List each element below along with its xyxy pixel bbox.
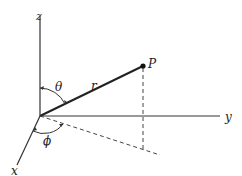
diagram-canvas: z y x P r θ ϕ: [0, 0, 242, 176]
z-axis-label: z: [35, 10, 42, 23]
phi-label: ϕ: [43, 134, 51, 148]
phi-arc: [33, 124, 63, 134]
theta-label: θ: [55, 80, 63, 94]
x-axis: [17, 116, 40, 165]
projection-ground-line: [40, 116, 160, 155]
radius-label: r: [91, 79, 98, 93]
point-p-label: P: [147, 57, 157, 71]
point-p-dot: [140, 63, 145, 68]
x-axis-label: x: [11, 164, 18, 176]
spherical-coordinates-diagram: z y x P r θ ϕ: [0, 0, 242, 176]
y-axis-label: y: [224, 110, 232, 124]
